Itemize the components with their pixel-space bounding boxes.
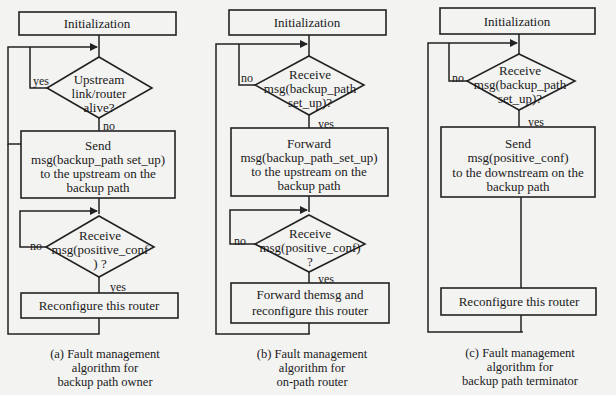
decision-label: Receive [499,63,541,78]
decision-label: Receive [289,226,331,241]
caption: algorithm for [487,360,554,374]
branch-label-no: no [452,71,464,85]
action-label: backup path [277,178,341,193]
decision-label: ) ? [93,256,107,271]
decision-label: msg(positive_conf [52,242,149,257]
init-label: Initialization [274,15,341,30]
decision-label: alive? [83,100,114,115]
caption: algorithm for [72,361,139,375]
action-label: Send [505,136,532,151]
action-label: reconfigure this router [252,303,369,318]
caption: backup path owner [57,375,153,389]
action-label: Forward themsg and [257,287,364,302]
action-label: to the downstream on the [452,165,584,180]
figure-canvas: Initialization Upstream link/router aliv… [0,0,616,395]
caption: algorithm for [279,361,346,375]
branch-label-yes: yes [33,74,49,88]
decision-label: msg(backup_path [474,77,567,92]
decision-label: msg(positive_conf) [259,240,360,255]
caption: backup path terminator [462,374,579,388]
action-label: to the upstream on the [40,166,156,181]
action-label: msg(positive_conf) [467,150,568,165]
action-label: backup path [486,179,550,194]
decision-label: link/router [72,86,128,101]
branch-label-no: no [30,239,42,253]
decision-label: set_up)? [288,95,332,110]
action-label: backup path [66,180,130,195]
caption: (c) Fault management [465,346,575,360]
action-label: Reconfigure this router [39,298,160,313]
decision-label: set_up)? [498,91,542,106]
init-label: Initialization [64,16,131,31]
flowchart-b: Initialization Receive msg(backup_path s… [216,10,389,389]
init-label: Initialization [484,14,551,29]
action-label: msg(backup_path_set_up) [240,150,377,165]
flowchart-c: Initialization Receive msg(backup_path s… [428,8,596,388]
action-label: to the upstream on the [251,164,367,179]
flowchart-a: Initialization Upstream link/router aliv… [8,12,178,389]
decision-label: msg(backup_path [264,81,357,96]
decision-label: Upstream [74,72,125,87]
caption: (b) Fault management [257,347,368,361]
decision-label: ? [307,254,313,269]
branch-label-no: no [234,234,246,248]
action-label: Forward [287,136,332,151]
action-label: Send [85,138,112,153]
action-label: Reconfigure this router [459,294,580,309]
branch-label-yes: yes [110,280,126,294]
decision-label: Receive [79,228,121,243]
branch-label-no: no [241,71,253,85]
caption: on-path router [276,375,348,389]
decision-label: Receive [289,67,331,82]
caption: (a) Fault management [50,347,160,361]
action-label: msg(backup_path set_up) [31,152,165,167]
